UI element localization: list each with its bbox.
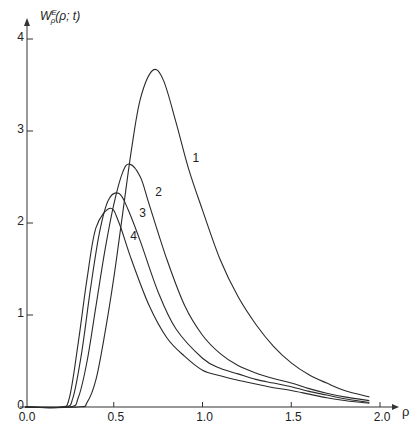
chart-plot-area: [0, 0, 420, 434]
x-axis-label: ρ: [402, 404, 409, 419]
curve-label-2: 2: [155, 185, 162, 199]
x-tick-label: 1.5: [278, 410, 308, 424]
y-tick-label: 1: [10, 306, 24, 320]
y-tick-label: 4: [10, 30, 24, 44]
curve-2: [25, 164, 369, 408]
x-tick-label: 2.0: [367, 410, 397, 424]
x-tick-label: 1.0: [190, 410, 220, 424]
curve-label-4: 4: [130, 229, 137, 243]
curve-4: [25, 208, 369, 407]
y-tick-label: 3: [10, 122, 24, 136]
x-tick-label: 0.0: [12, 410, 42, 424]
curve-label-1: 1: [192, 151, 199, 165]
curve-label-3: 3: [139, 206, 146, 220]
curve-3: [25, 193, 369, 408]
y-axis-arrow-icon: [24, 18, 30, 26]
y-tick-label: 2: [10, 214, 24, 228]
y-axis-label: WEρ(ρ; t): [40, 8, 80, 25]
x-tick-label: 0.5: [101, 410, 131, 424]
